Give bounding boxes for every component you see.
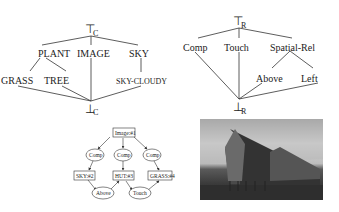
svg-text:Image:#1: Image:#1 [115, 130, 136, 136]
right-lattice-edges [195, 28, 318, 99]
node-comp: Comp [183, 42, 207, 53]
svg-text:Touch: Touch [133, 190, 147, 196]
left-lattice: ⊤ C PLANT IMAGE SKY GRASS TREE SKY-CLOUD… [1, 22, 167, 117]
node-sky: SKY [129, 48, 149, 59]
graph-nodes: Image:#1 Comp Comp Comp SKY:#2 HUT:#3 GR… [74, 128, 175, 199]
graph-edges [88, 137, 159, 190]
hut-photo [200, 119, 323, 200]
node-touch: Touch [224, 42, 249, 53]
node-sky-cloudy: SKY-CLOUDY [116, 77, 167, 86]
node-tree: TREE [44, 75, 69, 86]
node-left: Left [301, 73, 318, 84]
svg-text:HUT:#3: HUT:#3 [115, 173, 133, 179]
node-above: Above [256, 73, 283, 84]
bottom-r-sub: R [241, 107, 247, 116]
right-lattice: ⊤ R Comp Touch Spatial-Rel Above Left ⊥ … [183, 14, 318, 116]
svg-text:GRASS:#4: GRASS:#4 [150, 173, 175, 179]
node-plant: PLANT [38, 48, 70, 59]
bottom-c-sub: C [93, 108, 98, 117]
svg-text:Above: Above [96, 190, 111, 196]
svg-text:Comp: Comp [117, 152, 131, 158]
top-r-sub: R [241, 21, 247, 30]
node-spatial-rel: Spatial-Rel [270, 42, 315, 53]
hut-photo-art [200, 119, 323, 200]
svg-text:SKY:#2: SKY:#2 [76, 173, 94, 179]
top-c-sub: C [93, 29, 98, 38]
node-grass: GRASS [1, 75, 33, 86]
left-lattice-edges [18, 36, 141, 101]
svg-text:Comp: Comp [89, 152, 103, 158]
svg-text:Comp: Comp [146, 152, 160, 158]
node-image: IMAGE [77, 48, 110, 59]
